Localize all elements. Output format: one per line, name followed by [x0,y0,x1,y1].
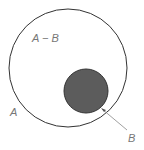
set-b-circle [64,69,108,113]
label-b: B [128,132,135,144]
venn-diagram: A − B A B [0,0,144,150]
label-a: A [9,106,17,118]
label-a-minus-b: A − B [31,32,59,44]
pointer-arrow [102,109,127,130]
set-a-circle [9,9,127,127]
